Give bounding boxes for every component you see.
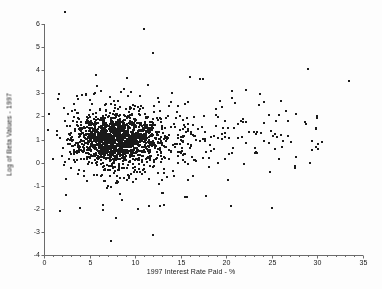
scatter-plot-canvas bbox=[0, 0, 382, 289]
x-axis-title: 1997 Interest Rate Paid - % bbox=[0, 268, 382, 275]
y-axis-title: Log of Beta Values - 1997 bbox=[6, 75, 13, 195]
scatter-plot-figure: 1997 Interest Rate Paid - % Log of Beta … bbox=[0, 0, 382, 289]
